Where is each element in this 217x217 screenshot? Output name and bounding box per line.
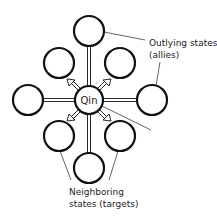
outlying-states-label: Outlying states <box>149 38 217 48</box>
neighboring-state-lower-right <box>105 121 135 151</box>
neighboring-state-lower-left <box>44 121 74 151</box>
neighboring-state-upper-right <box>105 48 135 78</box>
qin-strategy-diagram: Qin Outlying states (allies) Neighboring… <box>0 0 217 217</box>
diagram-svg: Qin Outlying states (allies) Neighboring… <box>0 0 217 217</box>
outlying-state-right <box>137 85 167 115</box>
outlying-states-sublabel: (allies) <box>149 50 179 60</box>
qin-label: Qin <box>81 95 98 106</box>
outlying-state-top <box>74 16 104 46</box>
arrow-upper-left-icon <box>67 79 80 90</box>
outlying-state-left <box>13 85 43 115</box>
arrow-lower-right-icon <box>98 110 111 121</box>
neighboring-states-label: Neighboring <box>69 187 124 197</box>
neighboring-state-upper-left <box>44 48 74 78</box>
arrow-lower-left-icon <box>67 110 80 121</box>
neighboring-states-sublabel: states (targets) <box>69 199 138 209</box>
arrow-upper-right-icon <box>98 79 111 90</box>
outlying-state-bottom <box>74 153 104 183</box>
